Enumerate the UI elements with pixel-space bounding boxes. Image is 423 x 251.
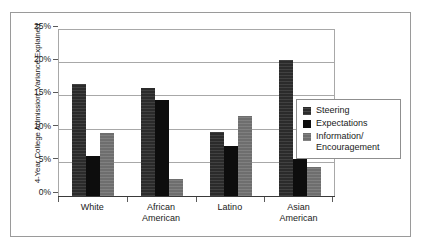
- x-axis-labels: WhiteAfricanAmericanLatinoAsianAmerican: [58, 202, 335, 236]
- legend-label-line: Steering: [316, 105, 350, 116]
- bar: [279, 60, 293, 196]
- bar-group: [128, 30, 197, 196]
- legend-label: Steering: [316, 105, 350, 116]
- y-tick: 25%: [11, 21, 58, 31]
- x-axis-label-line: American: [127, 213, 196, 224]
- legend-label-line: Encouragement: [316, 142, 380, 153]
- y-tick: 20%: [11, 54, 58, 64]
- y-tick-mark: [53, 26, 58, 27]
- legend-swatch: [303, 107, 311, 115]
- y-axis-ticks: 0%5%10%15%20%25%: [11, 29, 58, 197]
- y-tick: 0%: [11, 187, 58, 197]
- legend-label: Expectations: [316, 118, 368, 129]
- bar: [141, 88, 155, 196]
- bar: [169, 179, 183, 196]
- legend-swatch: [303, 133, 311, 141]
- y-tick: 15%: [11, 87, 58, 97]
- y-tick-label: 25%: [34, 21, 51, 31]
- legend-label-line: Expectations: [316, 118, 368, 129]
- bar: [210, 132, 224, 196]
- bar-group: [197, 30, 266, 196]
- chart-legend: SteeringExpectationsInformation/Encourag…: [296, 99, 401, 159]
- bar-group: [59, 30, 128, 196]
- x-axis-label: AfricanAmerican: [127, 202, 196, 224]
- legend-swatch: [303, 120, 311, 128]
- bar: [100, 133, 114, 196]
- legend-label-line: Information/: [316, 131, 380, 142]
- x-axis-label: Latino: [196, 202, 265, 213]
- bar: [72, 84, 86, 196]
- bar: [293, 159, 307, 196]
- bar: [224, 146, 238, 196]
- bar: [238, 116, 252, 196]
- x-axis-label-line: White: [58, 202, 127, 213]
- plot-area: [58, 29, 335, 197]
- y-tick-label: 20%: [34, 54, 51, 64]
- y-tick-label: 5%: [39, 154, 51, 164]
- y-tick: 5%: [11, 154, 58, 164]
- x-axis-label-line: Asian: [264, 202, 333, 213]
- bar: [307, 167, 321, 196]
- legend-label: Information/Encouragement: [316, 131, 380, 153]
- x-axis-label-line: African: [127, 202, 196, 213]
- y-tick-label: 0%: [39, 187, 51, 197]
- legend-item[interactable]: Expectations: [303, 118, 394, 129]
- bar: [86, 156, 100, 196]
- x-axis-label: AsianAmerican: [264, 202, 333, 224]
- x-axis-label-line: American: [264, 213, 333, 224]
- figure-frame: 4-Year College Admission: Variance Expla…: [10, 12, 411, 237]
- bars-layer: [59, 30, 334, 196]
- y-tick-label: 15%: [34, 87, 51, 97]
- y-tick-label: 10%: [34, 121, 51, 131]
- bar: [155, 100, 169, 196]
- x-axis-label-line: Latino: [196, 202, 265, 213]
- legend-item[interactable]: Information/Encouragement: [303, 131, 394, 153]
- legend-item[interactable]: Steering: [303, 105, 394, 116]
- y-tick: 10%: [11, 121, 58, 131]
- x-axis-label: White: [58, 202, 127, 213]
